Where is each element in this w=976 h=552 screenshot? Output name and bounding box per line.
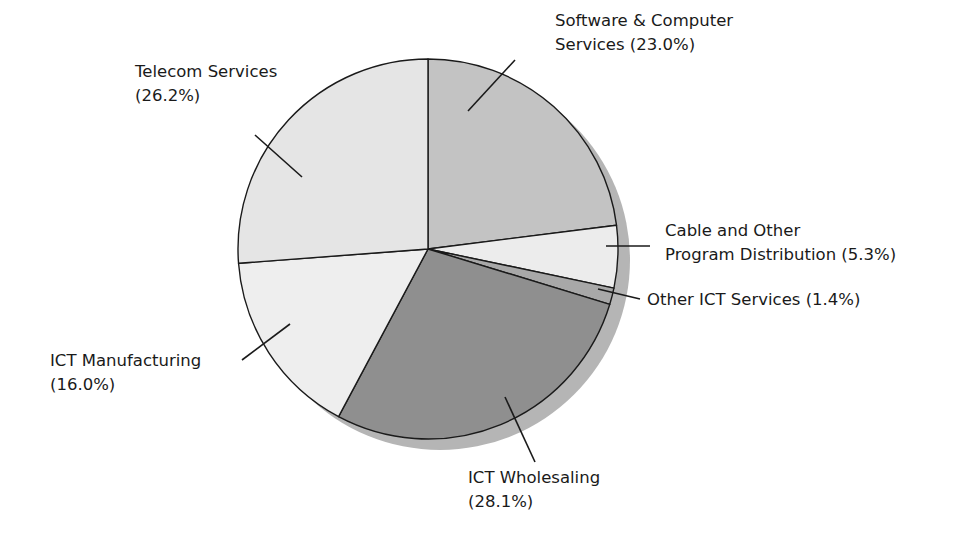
slice-label: Other ICT Services (1.4%): [647, 290, 860, 309]
slice-label-line: Software & Computer: [555, 11, 733, 30]
slice-label-line: (16.0%): [50, 375, 115, 394]
slice-label: ICT Wholesaling(28.1%): [468, 468, 600, 511]
pie-slice-telecom-services: [238, 59, 428, 263]
slice-label: Software & ComputerServices (23.0%): [555, 11, 733, 54]
slice-label-line: (26.2%): [135, 86, 200, 105]
slice-label: Cable and OtherProgram Distribution (5.3…: [665, 221, 896, 264]
slice-label: ICT Manufacturing(16.0%): [50, 351, 201, 394]
slice-label: Telecom Services(26.2%): [134, 62, 277, 105]
slice-label-line: Services (23.0%): [555, 35, 695, 54]
slice-label-line: (28.1%): [468, 492, 533, 511]
slice-label-line: Other ICT Services (1.4%): [647, 290, 860, 309]
slice-label-line: ICT Manufacturing: [50, 351, 201, 370]
slice-label-line: ICT Wholesaling: [468, 468, 600, 487]
slice-label-line: Cable and Other: [665, 221, 800, 240]
slice-label-line: Telecom Services: [134, 62, 277, 81]
pie-slice-software-computer-services: [428, 59, 617, 249]
slice-label-line: Program Distribution (5.3%): [665, 245, 896, 264]
pie-chart: Software & ComputerServices (23.0%)Cable…: [0, 0, 976, 552]
